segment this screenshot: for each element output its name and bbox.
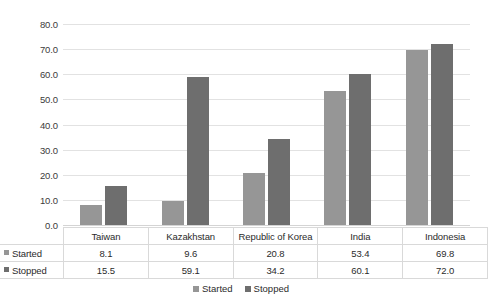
table-row: Stopped15.559.134.260.172.0 <box>0 262 487 279</box>
bar-group <box>389 0 470 232</box>
bar-stopped-republic-of-korea[interactable] <box>268 139 290 225</box>
table-row: Started8.19.620.853.469.8 <box>0 245 487 262</box>
table-value-cell: 34.2 <box>233 262 318 279</box>
table-column-header: Republic of Korea <box>233 228 318 245</box>
bar-started-kazakhstan[interactable] <box>162 201 184 225</box>
table-series-label: Stopped <box>12 265 47 276</box>
y-axis-tick-label: 10.0 <box>14 194 58 205</box>
table-value-cell: 9.6 <box>148 245 233 262</box>
table-value-cell: 53.4 <box>318 245 403 262</box>
table-value-cell: 15.5 <box>64 262 149 279</box>
y-axis-tick-label: 30.0 <box>14 144 58 155</box>
y-axis-tick-label: 60.0 <box>14 69 58 80</box>
bar-started-india[interactable] <box>324 91 346 225</box>
y-axis-tick-label: 40.0 <box>14 119 58 130</box>
bar-group <box>144 0 225 232</box>
legend-key-swatch-icon <box>4 250 9 255</box>
table-value-cell: 8.1 <box>64 245 149 262</box>
data-table: TaiwanKazakhstanRepublic of KoreaIndiaIn… <box>0 227 488 279</box>
table-value-cell: 20.8 <box>233 245 318 262</box>
table-header-row: TaiwanKazakhstanRepublic of KoreaIndiaIn… <box>0 228 487 245</box>
y-axis: 80.070.060.050.040.030.020.010.00.0 <box>14 0 58 232</box>
legend-swatch-icon <box>193 286 199 292</box>
table-value-cell: 59.1 <box>148 262 233 279</box>
bar-started-taiwan[interactable] <box>80 205 102 225</box>
bar-group <box>226 0 307 232</box>
chart-legend: StartedStopped <box>0 283 482 294</box>
legend-item-stopped[interactable]: Stopped <box>245 283 289 294</box>
table-column-header: India <box>318 228 403 245</box>
data-table-body: TaiwanKazakhstanRepublic of KoreaIndiaIn… <box>0 228 487 279</box>
bar-started-republic-of-korea[interactable] <box>243 173 265 225</box>
legend-key-swatch-icon <box>4 267 9 272</box>
legend-label: Started <box>202 283 233 294</box>
y-axis-tick-label: 20.0 <box>14 169 58 180</box>
bar-started-indonesia[interactable] <box>406 50 428 225</box>
y-axis-tick-label: 80.0 <box>14 19 58 30</box>
legend-label: Stopped <box>254 283 289 294</box>
table-value-cell: 69.8 <box>403 245 488 262</box>
bar-stopped-indonesia[interactable] <box>431 44 453 225</box>
legend-swatch-icon <box>245 286 251 292</box>
table-column-header: Taiwan <box>64 228 149 245</box>
table-column-header: Indonesia <box>403 228 488 245</box>
bar-group <box>63 0 144 232</box>
table-corner-cell <box>0 228 64 245</box>
table-column-header: Kazakhstan <box>148 228 233 245</box>
table-series-label: Started <box>12 248 42 259</box>
table-series-label-cell: Started <box>0 245 64 262</box>
bar-stopped-kazakhstan[interactable] <box>187 77 209 225</box>
y-axis-tick-label: 70.0 <box>14 44 58 55</box>
table-value-cell: 60.1 <box>318 262 403 279</box>
bar-stopped-india[interactable] <box>349 74 371 225</box>
bar-stopped-taiwan[interactable] <box>105 186 127 225</box>
table-value-cell: 72.0 <box>403 262 488 279</box>
legend-item-started[interactable]: Started <box>193 283 233 294</box>
plot-area: 80.070.060.050.040.030.020.010.00.0 <box>0 0 482 232</box>
y-axis-tick-label: 50.0 <box>14 94 58 105</box>
bar-group <box>307 0 388 232</box>
bars-layer <box>63 0 470 232</box>
table-series-label-cell: Stopped <box>0 262 64 279</box>
